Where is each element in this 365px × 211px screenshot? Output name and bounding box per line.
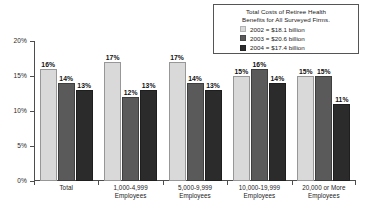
bar-value-label: 14%	[188, 75, 202, 82]
bar-value-label: 17%	[170, 54, 184, 61]
bar-column-2002: 15%	[297, 41, 314, 181]
bar-2004[interactable]	[269, 83, 286, 181]
bar-value-label: 15%	[299, 68, 313, 75]
bar-column-2002: 17%	[104, 41, 121, 181]
bar-column-2002: 17%	[169, 41, 186, 181]
category-label-line-1: 20,000 or More	[302, 184, 345, 191]
bar-group: 15%16%14%	[227, 41, 291, 181]
chart-screenshot: Total Costs of Retiree Health Benefits f…	[0, 0, 365, 211]
bar-column-2004: 11%	[333, 41, 350, 181]
category-label-line-1: 1,000-4,999	[114, 184, 148, 191]
y-tick-label: 5%	[17, 142, 27, 149]
category-label: 1,000-4,999Employees	[98, 184, 162, 200]
bar-2004[interactable]	[140, 90, 157, 181]
bar-value-label: 16%	[41, 61, 55, 68]
bar-2002[interactable]	[233, 76, 250, 181]
category-label-line-1: 10,000-19,999	[239, 184, 280, 191]
bar-2003[interactable]	[122, 97, 139, 181]
category-label: 5,000-9,999Employees	[163, 184, 227, 200]
legend-title-line-1: Total Costs of Retiree Health	[246, 8, 326, 15]
bar-column-2003: 14%	[187, 41, 204, 181]
bar-2002[interactable]	[40, 69, 57, 181]
bar-2002[interactable]	[297, 76, 314, 181]
bar-value-label: 11%	[335, 96, 348, 103]
legend-title: Total Costs of Retiree Health Benefits f…	[218, 8, 354, 23]
bar-2002[interactable]	[104, 62, 121, 181]
bar-group: 17%14%13%	[163, 41, 227, 181]
bar-2003[interactable]	[315, 76, 332, 181]
category-label: 20,000 or MoreEmployees	[292, 184, 356, 200]
category-label-line-1: Total	[59, 184, 73, 191]
bar-2003[interactable]	[58, 83, 75, 181]
legend-item-2002: 2002 = $18.1 billion	[240, 25, 354, 34]
bar-value-label: 17%	[106, 54, 120, 61]
bar-group: 16%14%13%	[34, 41, 98, 181]
bar-column-2003: 14%	[58, 41, 75, 181]
bar-column-2004: 13%	[140, 41, 157, 181]
bar-value-label: 13%	[142, 82, 156, 89]
bar-column-2004: 13%	[205, 41, 222, 181]
bar-column-2004: 13%	[76, 41, 93, 181]
bar-group: 17%12%13%	[98, 41, 162, 181]
bar-value-label: 16%	[253, 61, 267, 68]
bar-2004[interactable]	[205, 90, 222, 181]
bar-2003[interactable]	[251, 69, 268, 181]
category-label: Total	[34, 184, 98, 200]
bar-value-label: 12%	[124, 89, 138, 96]
category-label-line-2: Employees	[292, 192, 356, 200]
y-tick-label: 10%	[14, 107, 28, 114]
bar-value-label: 14%	[59, 75, 73, 82]
bar-column-2002: 15%	[233, 41, 250, 181]
bar-value-label: 15%	[317, 68, 331, 75]
bar-value-label: 13%	[206, 82, 220, 89]
bar-group-bars: 15%16%14%	[227, 41, 291, 181]
bar-group-bars: 17%12%13%	[98, 41, 162, 181]
bar-column-2003: 16%	[251, 41, 268, 181]
bar-column-2003: 12%	[122, 41, 139, 181]
legend-label-2002: 2002 = $18.1 billion	[250, 26, 305, 33]
bar-column-2004: 14%	[269, 41, 286, 181]
plot-area: 0%5%10%15%20% 16%14%13%17%12%13%17%14%13…	[34, 41, 356, 181]
bar-group-bars: 16%14%13%	[34, 41, 98, 181]
y-tick-label: 0%	[17, 177, 27, 184]
bar-column-2003: 15%	[315, 41, 332, 181]
legend-swatch-2002	[240, 26, 246, 32]
category-label-line-2: Employees	[163, 192, 227, 200]
category-label-line-1: 5,000-9,999	[178, 184, 212, 191]
bar-2004[interactable]	[333, 104, 350, 181]
y-tick-label: 15%	[14, 72, 28, 79]
bar-2002[interactable]	[169, 62, 186, 181]
y-tick-label: 20%	[14, 37, 28, 44]
bar-value-label: 14%	[271, 75, 285, 82]
bar-group-bars: 15%15%11%	[292, 41, 356, 181]
bar-2004[interactable]	[76, 90, 93, 181]
category-label: 10,000-19,999Employees	[227, 184, 291, 200]
bar-value-label: 15%	[235, 68, 249, 75]
bar-column-2002: 16%	[40, 41, 57, 181]
bar-value-label: 13%	[77, 82, 91, 89]
bar-group-bars: 17%14%13%	[163, 41, 227, 181]
category-label-line-2: Employees	[227, 192, 291, 200]
bar-group: 15%15%11%	[292, 41, 356, 181]
bar-2003[interactable]	[187, 83, 204, 181]
legend-title-line-2: Benefits for All Surveyed Firms.	[242, 16, 330, 23]
category-label-line-2: Employees	[98, 192, 162, 200]
bar-groups: 16%14%13%17%12%13%17%14%13%15%16%14%15%1…	[34, 41, 356, 181]
x-axis-category-labels: Total1,000-4,999Employees5,000-9,999Empl…	[34, 184, 356, 200]
